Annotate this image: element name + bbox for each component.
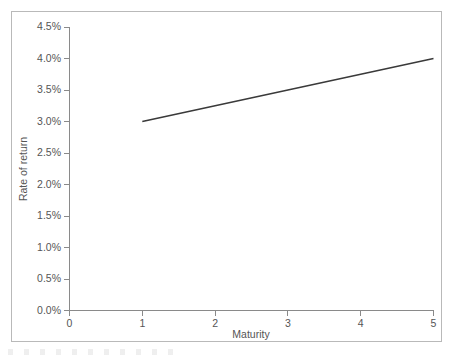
- x-tick-label: 5: [431, 317, 437, 329]
- y-tick-label: 3.5%: [37, 83, 61, 95]
- chart-figure: 0.0% 0.5% 1.0% 1.5% 2.0% 2.5% 3.0% 3.5% …: [0, 0, 454, 357]
- y-tick-label: 2.0%: [37, 178, 61, 190]
- y-axis-title: Rate of return: [17, 137, 29, 201]
- y-tick-label: 3.0%: [37, 115, 61, 127]
- y-tick-label: 2.5%: [37, 146, 61, 158]
- x-axis: 0 1 2 3 4 5: [67, 311, 437, 330]
- y-axis: 0.0% 0.5% 1.0% 1.5% 2.0% 2.5% 3.0% 3.5% …: [37, 20, 69, 316]
- y-tick-label: 4.0%: [37, 52, 61, 64]
- y-tick-label: 0.0%: [37, 304, 61, 316]
- y-tick-label: 1.5%: [37, 209, 61, 221]
- y-tick-label: 4.5%: [37, 20, 61, 32]
- y-tick-label: 1.0%: [37, 241, 61, 253]
- y-tick-label: 0.5%: [37, 272, 61, 284]
- x-tick-label: 2: [212, 317, 218, 329]
- x-tick-label: 4: [358, 317, 364, 329]
- x-tick-label: 3: [285, 317, 291, 329]
- data-series-group: [142, 59, 433, 122]
- x-tick-label: 1: [139, 317, 145, 329]
- line-chart: 0.0% 0.5% 1.0% 1.5% 2.0% 2.5% 3.0% 3.5% …: [0, 0, 454, 357]
- x-tick-label: 0: [67, 317, 73, 329]
- scan-artifact: [8, 349, 178, 355]
- series-line-yield-curve: [142, 59, 433, 122]
- x-axis-title: Maturity: [232, 328, 270, 340]
